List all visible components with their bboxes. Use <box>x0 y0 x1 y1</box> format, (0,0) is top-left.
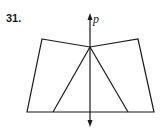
geometry-figure <box>0 0 165 129</box>
triangle-right-edge <box>90 47 128 112</box>
axis-arrow-up-icon <box>88 13 93 20</box>
triangle-left-edge <box>53 47 90 112</box>
axis-arrow-down-icon <box>88 120 93 127</box>
